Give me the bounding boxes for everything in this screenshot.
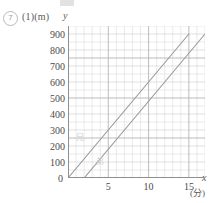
plot-area (68, 26, 205, 178)
x-axis-tick-label: 10 (144, 181, 154, 192)
upper-line-annotation: 兄 (76, 131, 84, 142)
major-gridlines (68, 26, 205, 178)
chart-canvas (68, 26, 205, 178)
lower-line-annotation: 弟 (96, 155, 104, 166)
x-axis-tick-label: 5 (106, 181, 111, 192)
figure-root: 7 (1)(m) y x (分) 01002003004005006007008… (0, 0, 217, 203)
minor-gridlines (68, 26, 205, 178)
axis-lines (68, 26, 205, 178)
x-axis-tick-label: 15 (184, 181, 194, 192)
